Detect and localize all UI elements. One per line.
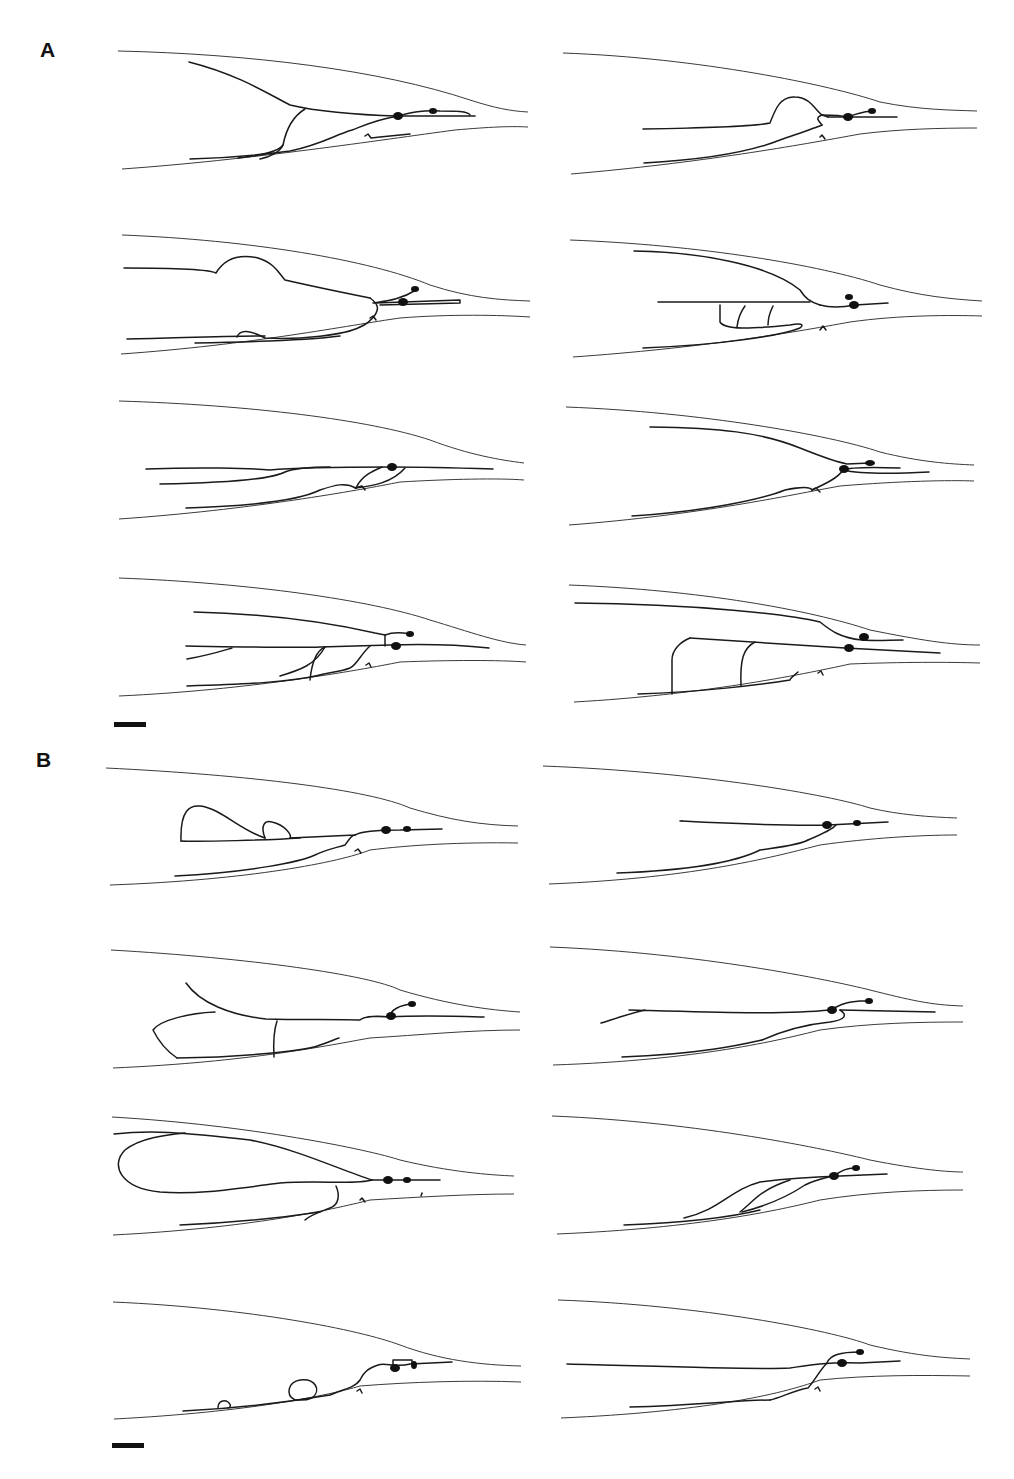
- scale-bar: [112, 1443, 144, 1448]
- tracing-b2: [543, 766, 957, 884]
- body-outline-ventral: [557, 1190, 963, 1234]
- cell-body: [865, 998, 873, 1004]
- neurite-process: [768, 306, 773, 325]
- neurite-process: [181, 806, 265, 841]
- tracing-a4: [570, 240, 982, 357]
- body-outline-dorsal: [106, 768, 518, 826]
- body-outline-dorsal: [558, 1300, 970, 1359]
- neurite-process: [186, 485, 356, 508]
- neurite-process: [356, 467, 382, 488]
- tracing-b7: [113, 1302, 521, 1419]
- body-outline-dorsal: [113, 1302, 521, 1366]
- body-outline-dorsal: [543, 766, 957, 818]
- body-outline-dorsal: [552, 1116, 963, 1172]
- body-outline-dorsal: [118, 51, 528, 112]
- tracing-a3: [121, 235, 530, 354]
- neurite-process: [181, 838, 300, 841]
- neurite-process: [320, 646, 370, 675]
- cell-body: [398, 298, 408, 306]
- tracing-a5: [119, 401, 524, 519]
- cell-body: [381, 826, 391, 834]
- tracing-a8: [569, 585, 980, 702]
- tracing-a2: [563, 53, 977, 174]
- neurite-process: [114, 1132, 372, 1180]
- body-outline-dorsal: [119, 401, 524, 463]
- cell-body: [843, 113, 853, 121]
- cell-body: [829, 1172, 839, 1180]
- neurite-process: [808, 825, 836, 840]
- neurite-process: [357, 1389, 362, 1393]
- neurite-process: [644, 125, 822, 163]
- neurite-process: [650, 427, 843, 463]
- scale-bar: [114, 722, 146, 727]
- neurite-process: [305, 1186, 338, 1220]
- neurite-process: [741, 642, 755, 686]
- neurite-process: [672, 638, 690, 694]
- cell-body: [393, 112, 403, 120]
- body-outline-ventral: [122, 127, 528, 169]
- neurite-process: [218, 1401, 230, 1408]
- neurite-process: [762, 1010, 844, 1040]
- cell-body: [853, 820, 861, 826]
- body-outline-ventral: [553, 1022, 963, 1065]
- neurite-process: [290, 829, 442, 838]
- tracing-b8: [558, 1300, 970, 1418]
- body-outline-dorsal: [122, 235, 530, 301]
- neurite-process: [153, 1012, 215, 1058]
- neurite-process: [289, 1380, 317, 1400]
- body-outline-dorsal: [566, 407, 974, 465]
- cell-body: [411, 286, 419, 292]
- neuron-tracing-figure: [0, 0, 1014, 1479]
- cell-body: [844, 644, 854, 652]
- neurite-process: [843, 470, 929, 473]
- cell-body: [391, 642, 401, 650]
- neurite-process: [189, 62, 398, 116]
- neurite-process: [818, 671, 823, 675]
- body-outline-dorsal: [570, 240, 982, 301]
- body-outline-ventral: [113, 1030, 520, 1068]
- body-outline-ventral: [121, 315, 530, 354]
- neurite-process: [187, 675, 320, 686]
- neurite-process: [634, 251, 820, 305]
- neurite-process: [194, 612, 385, 635]
- neurite-process: [355, 849, 361, 853]
- neurite-process: [575, 603, 903, 640]
- body-outline-ventral: [571, 128, 977, 174]
- cell-body: [403, 826, 411, 832]
- cell-body: [383, 1176, 393, 1184]
- cell-body: [403, 1177, 411, 1183]
- tracing-b3: [111, 950, 520, 1068]
- body-outline-ventral: [119, 661, 526, 697]
- cell-body: [868, 108, 876, 114]
- tracing-b4: [550, 947, 963, 1065]
- body-outline-ventral: [573, 316, 982, 357]
- neurite-process: [601, 1010, 645, 1023]
- cell-body: [845, 294, 853, 300]
- body-outline-ventral: [549, 835, 957, 884]
- tracing-b1: [106, 768, 518, 885]
- body-outline-ventral: [569, 481, 974, 525]
- neurite-process: [629, 1010, 830, 1013]
- neurite-process: [421, 1193, 422, 1196]
- body-outline-ventral: [561, 1375, 970, 1418]
- tracing-b6: [552, 1116, 963, 1234]
- cell-body: [408, 1001, 416, 1007]
- neurite-process: [632, 487, 812, 516]
- neurite-process: [638, 672, 798, 694]
- cell-body: [822, 821, 832, 829]
- neurite-process: [183, 1362, 452, 1411]
- tracing-a7: [119, 578, 526, 696]
- neurite-process: [643, 97, 828, 129]
- neurite-process: [843, 467, 900, 470]
- cell-body: [859, 633, 869, 641]
- neurite-process: [815, 1387, 820, 1391]
- tracing-a6: [566, 407, 974, 525]
- neurite-process: [263, 822, 290, 838]
- neurite-process: [740, 1180, 790, 1212]
- body-outline-ventral: [119, 479, 524, 519]
- tracing-b5: [112, 1117, 514, 1235]
- body-outline-ventral: [110, 843, 518, 885]
- neurite-process: [366, 663, 371, 667]
- body-outline-dorsal: [119, 578, 526, 645]
- neurite-process: [118, 1133, 372, 1193]
